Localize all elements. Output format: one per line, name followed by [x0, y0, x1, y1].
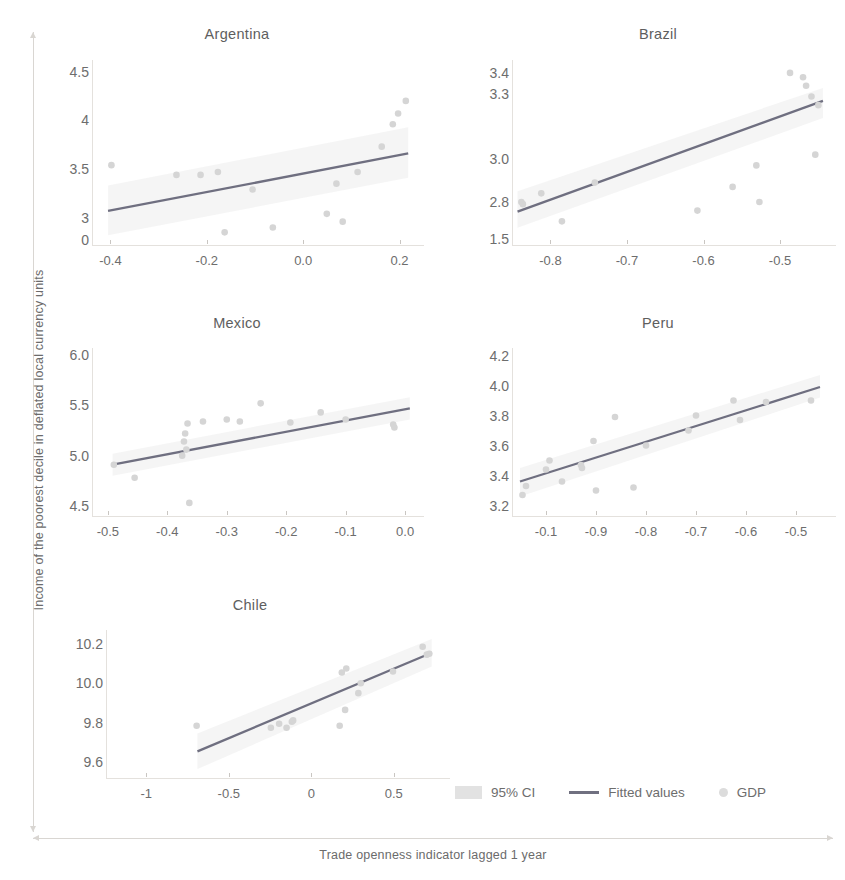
gdp-data-point — [756, 199, 763, 206]
x-tick-label: -0.7 — [616, 253, 638, 268]
panel-title: Peru — [490, 315, 826, 331]
gdp-data-point — [559, 218, 566, 225]
gdp-data-point — [737, 417, 744, 424]
x-tick-mark — [780, 240, 781, 244]
gdp-data-point — [612, 414, 619, 421]
y-tick-label: 3.0 — [490, 151, 509, 167]
y-tick-label: 9.6 — [84, 754, 103, 770]
gdp-data-point — [391, 424, 398, 431]
gdp-data-point — [808, 397, 815, 404]
confidence-interval-band — [518, 88, 823, 228]
gdp-data-point — [787, 70, 794, 77]
x-tick-mark — [596, 511, 597, 515]
x-tick-mark — [400, 240, 401, 244]
x-axis-line — [92, 245, 424, 246]
x-tick-label: -0.5 — [218, 786, 240, 801]
x-axis-line — [106, 778, 450, 779]
y-tick-label: 4.2 — [490, 348, 509, 364]
x-tick-mark — [696, 511, 697, 515]
y-tick-label: 9.8 — [84, 715, 103, 731]
legend-item-fitted: Fitted values — [569, 785, 685, 800]
y-tick-label: 5.0 — [70, 448, 89, 464]
gdp-data-point — [426, 650, 433, 657]
gdp-data-point — [763, 399, 770, 406]
x-tick-label: -0.8 — [539, 253, 561, 268]
gdp-data-point — [111, 461, 118, 468]
gdp-data-point — [630, 484, 637, 491]
x-tick-mark — [207, 240, 208, 244]
x-tick-label: -0.1 — [535, 524, 557, 539]
x-tick-mark — [346, 511, 347, 515]
gdp-data-point — [323, 211, 330, 218]
gdp-data-point — [342, 416, 349, 423]
x-axis-line — [512, 245, 836, 246]
gdp-data-point — [343, 665, 350, 672]
confidence-interval-band — [520, 375, 820, 497]
panel-brazil: Brazil — [490, 26, 826, 46]
gdp-data-point — [694, 207, 701, 214]
gdp-data-point — [223, 416, 230, 423]
confidence-interval-band — [197, 639, 431, 769]
series-canvas — [110, 630, 440, 778]
gdp-data-point — [270, 224, 277, 231]
y-tick-label: 4.5 — [70, 64, 89, 80]
y-axis-line — [106, 630, 107, 778]
gdp-data-point — [395, 110, 402, 117]
series-canvas — [96, 348, 414, 516]
x-tick-mark — [405, 511, 406, 515]
gdp-data-point — [173, 172, 180, 179]
gdp-data-point — [390, 668, 397, 675]
x-tick-label: -0.4 — [156, 524, 178, 539]
y-axis-line — [512, 60, 513, 245]
y-tick-label: 3.3 — [490, 86, 509, 102]
chart-legend: 95% CI Fitted values GDP — [455, 785, 766, 800]
gdp-dot-swatch-icon — [719, 788, 728, 797]
panel-argentina: Argentina — [60, 26, 414, 46]
series-canvas — [516, 348, 826, 516]
x-tick-mark — [704, 240, 705, 244]
x-axis-line — [92, 516, 424, 517]
gdp-data-point — [179, 452, 186, 459]
x-tick-label: -0.1 — [334, 524, 356, 539]
gdp-data-point — [693, 412, 700, 419]
gdp-data-point — [523, 483, 530, 490]
gdp-data-point — [543, 466, 550, 473]
gdp-data-point — [131, 474, 138, 481]
y-tick-label: 3.4 — [490, 65, 509, 81]
gdp-data-point — [342, 707, 349, 714]
gdp-data-point — [812, 151, 819, 158]
panel-title: Brazil — [490, 26, 826, 42]
x-tick-label: -0.2 — [196, 253, 218, 268]
panel-mexico: Mexico — [60, 315, 414, 335]
gdp-data-point — [257, 400, 264, 407]
gdp-data-point — [181, 438, 188, 445]
x-tick-label: -0.9 — [585, 524, 607, 539]
gdp-data-point — [237, 418, 244, 425]
gdp-data-point — [643, 442, 650, 449]
gdp-data-point — [339, 218, 346, 225]
gdp-data-point — [358, 680, 365, 687]
gdp-data-point — [593, 487, 600, 494]
gdp-data-point — [186, 500, 193, 507]
gdp-data-point — [354, 169, 361, 176]
gdp-data-point — [287, 419, 294, 426]
x-tick-label: -0.8 — [635, 524, 657, 539]
gdp-data-point — [538, 190, 545, 197]
global-x-axis-arrow — [33, 838, 833, 839]
fitted-line-swatch-icon — [569, 791, 599, 793]
gdp-data-point — [390, 121, 397, 128]
gdp-data-point — [355, 690, 362, 697]
x-tick-label: -0.6 — [735, 524, 757, 539]
y-axis-line — [92, 348, 93, 516]
x-tick-mark — [796, 511, 797, 515]
x-axis-title: Trade openness indicator lagged 1 year — [33, 848, 833, 862]
gdp-data-point — [753, 162, 760, 169]
y-tick-label: 3.2 — [490, 498, 509, 514]
gdp-data-point — [283, 724, 290, 731]
y-axis-line — [512, 348, 513, 516]
gdp-data-point — [808, 93, 815, 100]
x-tick-label: -0.3 — [216, 524, 238, 539]
x-tick-label: -0.5 — [769, 253, 791, 268]
x-tick-mark — [546, 511, 547, 515]
x-tick-label: -0.2 — [275, 524, 297, 539]
